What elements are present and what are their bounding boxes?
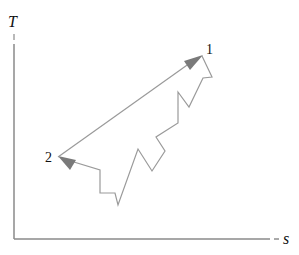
arrowhead-2-icon [58,156,76,170]
arrowhead-1-icon [184,55,203,70]
reversible-path [58,63,190,157]
y-axis-label: T [8,13,18,30]
state-1-label: 1 [206,42,213,57]
state-2-label: 2 [45,150,52,165]
x-axis-label: s [283,230,289,247]
t-s-diagram: T s 1 2 [0,0,299,255]
irreversible-path [64,56,212,205]
